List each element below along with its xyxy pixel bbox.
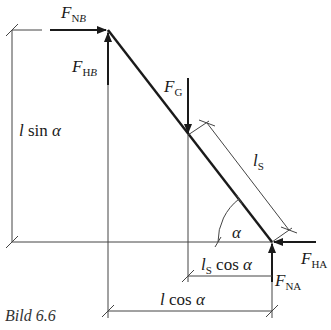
label-f-ha: FHA (301, 250, 327, 270)
tick-arc-top (236, 194, 242, 204)
label-l-cos-alpha: l cos α (160, 291, 205, 308)
label-ls-cos-alpha: lS cos α (201, 256, 252, 276)
label-f-hb: FHB (72, 58, 97, 78)
tick-ls-bottom (281, 227, 297, 233)
ladder-beam (108, 30, 272, 242)
tick-ls-top (199, 120, 215, 126)
dim-line-ls (207, 123, 289, 230)
label-l-sin-alpha: l sin α (19, 122, 61, 139)
label-angle-alpha: α (232, 224, 241, 241)
label-f-g: FG (164, 78, 182, 98)
label-l-s: lS (253, 152, 264, 172)
label-f-nb: FNB (61, 4, 86, 24)
figure-caption: Bild 6.6 (5, 308, 56, 324)
label-f-na: FNA (275, 272, 301, 292)
